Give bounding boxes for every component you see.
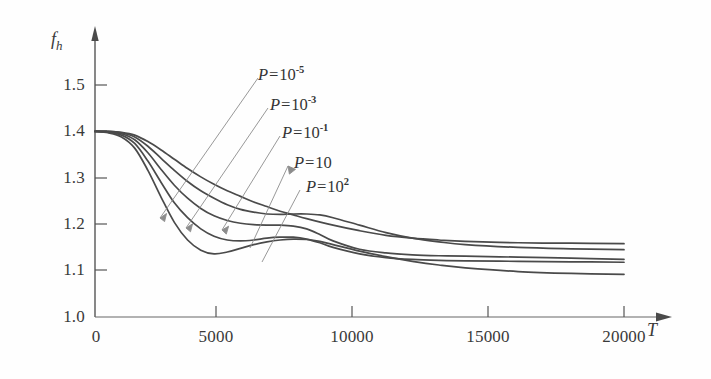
y-tick-label-1-2: 1.2 <box>41 214 85 234</box>
x-tick-label-10000: 10000 <box>312 327 392 347</box>
y-tick-marks <box>95 85 107 270</box>
data-curve <box>95 131 624 243</box>
annotation-exponent-1: -3 <box>308 94 316 105</box>
figure-container: fh T 1.0 1.1 1.2 1.3 1.4 1.5 0 5000 1000… <box>0 0 711 379</box>
leader-line-p10 <box>250 166 288 248</box>
y-axis-label: fh <box>51 29 63 54</box>
y-tick-label-1-1: 1.1 <box>41 260 85 280</box>
annotation-prefix-4: P= <box>306 177 327 196</box>
leader-arrow-p1e-5 <box>160 214 167 222</box>
x-tick-label-5000: 5000 <box>176 327 256 347</box>
annotation-base-1: 10 <box>291 95 308 114</box>
annotation-p-10: P=10 <box>294 152 332 173</box>
annotation-prefix-3: P= <box>294 153 315 172</box>
annotation-p-1e-1: P=10-1 <box>282 122 328 143</box>
annotation-p-1e-5: P=10-5 <box>258 64 304 85</box>
annotation-prefix-1: P= <box>270 95 291 114</box>
leader-line-p1e-1 <box>222 136 280 230</box>
annotation-p-1e2: P=102 <box>306 176 349 197</box>
x-axis-arrowhead <box>656 313 672 322</box>
y-tick-label-1-4: 1.4 <box>41 121 85 141</box>
x-tick-marks <box>216 306 624 317</box>
annotation-exponent-0: -5 <box>296 64 304 75</box>
chart-canvas <box>0 0 711 379</box>
x-tick-label-15000: 15000 <box>448 327 528 347</box>
data-curves-group <box>95 131 624 274</box>
leader-arrow-p1e-3 <box>186 224 193 232</box>
y-tick-label-1-0: 1.0 <box>41 307 85 327</box>
annotation-exponent-2: -1 <box>320 122 328 133</box>
annotation-base-3: 10 <box>315 153 332 172</box>
leader-line-p1e-3 <box>186 108 268 228</box>
annotation-prefix-2: P= <box>282 123 303 142</box>
x-tick-label-20000: 20000 <box>584 327 664 347</box>
annotation-base-4: 10 <box>327 177 344 196</box>
annotation-p-1e-3: P=10-3 <box>270 94 316 115</box>
data-curve <box>95 131 624 259</box>
annotation-prefix-0: P= <box>258 65 279 84</box>
y-tick-label-1-3: 1.3 <box>41 168 85 188</box>
x-tick-label-0: 0 <box>56 327 136 347</box>
data-curve <box>95 131 624 249</box>
annotation-base-2: 10 <box>303 123 320 142</box>
annotation-base-0: 10 <box>279 65 296 84</box>
y-axis-arrowhead <box>91 26 98 41</box>
y-axis-label-subscript: h <box>56 38 63 53</box>
leader-arrow-p1e-1 <box>222 226 229 234</box>
y-tick-label-1-5: 1.5 <box>41 75 85 95</box>
annotation-exponent-4: 2 <box>344 176 349 187</box>
